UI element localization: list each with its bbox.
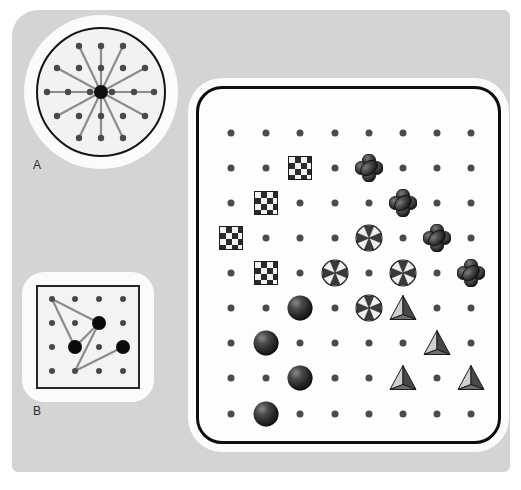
lattice-cell [332, 340, 339, 347]
lattice-cell [288, 366, 313, 391]
four-lobe-clover-glyph [355, 154, 383, 182]
octagon-pinwheel-glyph [355, 224, 383, 252]
lattice-cell [366, 270, 373, 277]
panel-b-big-dot [116, 340, 130, 354]
lattice-cell [297, 270, 304, 277]
panel-a-dot [54, 65, 60, 71]
lattice-dot [434, 375, 441, 382]
panel-a-dot [109, 89, 115, 95]
shaded-pyramid-glyph [388, 365, 418, 392]
lattice-cell [288, 156, 312, 180]
lattice-dot [263, 165, 270, 172]
panel-b-dot [72, 320, 78, 326]
panel-a-dot [87, 89, 93, 95]
lattice-dot [434, 305, 441, 312]
panel-a-dot [65, 89, 71, 95]
lattice-cell [468, 411, 475, 418]
octagon-pinwheel-glyph [355, 294, 383, 322]
lattice-dot [434, 165, 441, 172]
panel-a-dot [76, 135, 82, 141]
lattice-dot [228, 375, 235, 382]
checkerboard-square-glyph [254, 261, 278, 285]
lattice-dot [297, 235, 304, 242]
lattice-cell [423, 224, 451, 252]
lattice-cell [468, 130, 475, 137]
panel-c [196, 86, 501, 444]
lattice-cell [228, 165, 235, 172]
panel-a-dot [120, 43, 126, 49]
lattice-cell [254, 191, 278, 215]
lattice-cell [422, 330, 452, 357]
lattice-dot [468, 200, 475, 207]
panel-b-dot [96, 296, 102, 302]
lattice-dot [297, 340, 304, 347]
lattice-cell [332, 130, 339, 137]
panel-a-center-dot [94, 85, 108, 99]
lattice-cell [254, 261, 278, 285]
panel-b-big-dot [92, 316, 106, 330]
panel-a-dot [44, 89, 50, 95]
lattice-cell [400, 411, 407, 418]
lattice-dot [434, 411, 441, 418]
lattice-cell [434, 130, 441, 137]
shaded-pyramid-glyph [456, 365, 486, 392]
panel-a-dot [120, 135, 126, 141]
lattice-cell [389, 259, 417, 287]
lattice-dot [263, 305, 270, 312]
panel-b-label: B [33, 404, 42, 418]
lattice-dot [332, 375, 339, 382]
lattice-dot [468, 305, 475, 312]
panel-b-big-dot [68, 340, 82, 354]
panel-c-lattice [199, 89, 498, 441]
lattice-dot [366, 270, 373, 277]
lattice-dot [400, 411, 407, 418]
lattice-cell [288, 296, 313, 321]
lattice-cell [434, 165, 441, 172]
lattice-dot [434, 200, 441, 207]
lattice-dot [366, 130, 373, 137]
lattice-dot [400, 130, 407, 137]
lattice-cell [434, 411, 441, 418]
lattice-dot [263, 130, 270, 137]
lattice-cell [297, 340, 304, 347]
checkerboard-square-glyph [254, 191, 278, 215]
panel-a-dot [54, 113, 60, 119]
lattice-cell [332, 235, 339, 242]
panel-b-dot [49, 296, 55, 302]
lattice-dot [400, 235, 407, 242]
lattice-cell [400, 165, 407, 172]
panel-a-dot [98, 43, 104, 49]
panel-a-point-pattern [36, 27, 166, 157]
lattice-cell [388, 295, 418, 322]
lattice-cell [228, 340, 235, 347]
panel-a-dot [120, 65, 126, 71]
panel-a-dot [98, 135, 104, 141]
octagon-pinwheel-glyph [321, 259, 349, 287]
panel-a-dot [142, 65, 148, 71]
panel-a [36, 27, 166, 157]
lattice-cell [457, 259, 485, 287]
panel-b-dot [96, 368, 102, 374]
lattice-dot [332, 340, 339, 347]
panel-b-point-pattern [36, 285, 140, 389]
lattice-dot [400, 165, 407, 172]
panel-b-dot [120, 296, 126, 302]
shaded-sphere-glyph [288, 296, 313, 321]
lattice-dot [434, 270, 441, 277]
panel-a-label: A [33, 158, 42, 172]
lattice-dot [366, 375, 373, 382]
lattice-cell [400, 235, 407, 242]
lattice-cell [263, 130, 270, 137]
checkerboard-square-glyph [288, 156, 312, 180]
panel-b-dot [120, 368, 126, 374]
panel-a-dot [151, 89, 157, 95]
panel-a-dot [98, 113, 104, 119]
lattice-dot [228, 165, 235, 172]
lattice-cell [366, 340, 373, 347]
lattice-cell [219, 226, 243, 250]
lattice-dot [468, 130, 475, 137]
lattice-cell [321, 259, 349, 287]
lattice-cell [366, 200, 373, 207]
panel-b-dot [49, 344, 55, 350]
lattice-cell [228, 270, 235, 277]
